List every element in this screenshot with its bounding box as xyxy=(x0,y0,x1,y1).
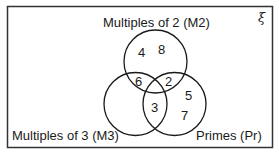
region-value-m3-pr: 3 xyxy=(151,100,158,115)
set-label-primes: Primes (Pr) xyxy=(196,128,262,143)
region-value-pr-only-2: 7 xyxy=(181,108,188,123)
set-label-m3: Multiples of 3 (M3) xyxy=(12,128,119,143)
venn-diagram: ξ Multiples of 2 (M2) Multiples of 3 (M3… xyxy=(0,0,279,153)
region-value-m2-only-2: 8 xyxy=(158,42,165,57)
region-value-m2-pr: 2 xyxy=(165,74,172,89)
region-value-m2-only-1: 4 xyxy=(138,45,145,60)
region-value-pr-only-1: 5 xyxy=(185,88,192,103)
universal-set-symbol: ξ xyxy=(258,10,266,25)
set-label-m2: Multiples of 2 (M2) xyxy=(103,15,210,30)
region-value-m2-m3: 6 xyxy=(135,74,142,89)
